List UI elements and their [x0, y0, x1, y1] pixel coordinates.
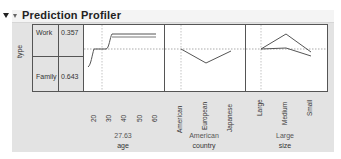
tick-age-40: 40	[120, 115, 127, 122]
prediction-profiler-panel: Prediction Profiler type Work 0.357 Fami…	[12, 10, 334, 152]
profile-plot-age[interactable]	[83, 24, 166, 92]
profile-plot-size[interactable]	[245, 24, 328, 92]
response-table: Work 0.357 Family 0.643	[32, 24, 84, 92]
current-value-country[interactable]: American	[164, 132, 244, 139]
panel-title: Prediction Profiler	[22, 9, 121, 21]
panel-header[interactable]: Prediction Profiler	[12, 10, 334, 23]
tick-country-american: American	[176, 106, 183, 133]
profile-plot-country[interactable]	[164, 24, 247, 92]
disclosure-triangle-icon[interactable]	[3, 13, 9, 18]
response-value-family: 0.643	[61, 73, 79, 80]
tick-age-50: 50	[136, 115, 143, 122]
tick-country-japanese: Japanese	[226, 104, 233, 132]
red-triangle-menu-icon[interactable]	[13, 14, 17, 18]
tick-country-european: European	[201, 102, 208, 130]
response-value-work: 0.357	[61, 29, 79, 36]
variable-name-country: country	[164, 142, 244, 149]
response-axis-label: type	[16, 45, 23, 58]
response-label-family: Family	[36, 73, 57, 80]
current-value-size[interactable]: Large	[245, 132, 325, 139]
variable-name-size: size	[245, 142, 325, 149]
tick-age-30: 30	[105, 115, 112, 122]
response-label-work: Work	[36, 29, 52, 36]
variable-name-age: age	[83, 142, 163, 149]
tick-size-medium: Medium	[281, 102, 288, 125]
tick-size-small: Small	[306, 100, 313, 116]
tick-size-large: Large	[256, 99, 263, 116]
current-value-age[interactable]: 27.63	[83, 132, 163, 139]
tick-age-20: 20	[90, 115, 97, 122]
tick-age-60: 60	[151, 115, 158, 122]
